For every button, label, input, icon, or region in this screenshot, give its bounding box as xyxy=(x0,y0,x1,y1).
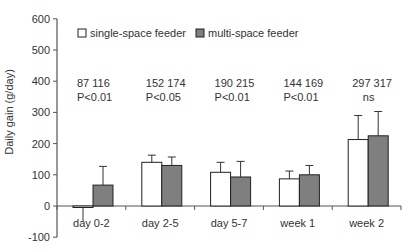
bar xyxy=(93,185,113,206)
bar xyxy=(231,177,251,206)
legend-label: multi-space feeder xyxy=(208,27,299,39)
x-axis: day 0-2day 2-5day 5-7week 1week 2 xyxy=(57,206,401,229)
sample-size-label: 87 116 xyxy=(77,77,110,89)
bars xyxy=(73,111,388,221)
significance-label: ns xyxy=(363,91,375,103)
y-tick-label: 600 xyxy=(32,13,50,25)
significance-label: P<0.01 xyxy=(77,91,112,103)
y-tick-label: 400 xyxy=(32,75,50,87)
sample-size-label: 152 174 xyxy=(146,77,186,89)
y-tick-label: 500 xyxy=(32,44,50,56)
annotations: 87 116P<0.01152 174P<0.05190 215P<0.0114… xyxy=(77,77,392,103)
bar xyxy=(299,175,319,206)
x-category-label: week 2 xyxy=(348,217,384,229)
legend: single-space feedermulti-space feeder xyxy=(78,27,299,39)
y-tick-label: 0 xyxy=(44,200,50,212)
significance-label: P<0.01 xyxy=(215,91,250,103)
x-category-label: day 0-2 xyxy=(73,217,110,229)
legend-swatch xyxy=(196,29,204,37)
x-category-label: day 2-5 xyxy=(142,217,179,229)
bar xyxy=(279,179,299,206)
x-category-label: week 1 xyxy=(279,217,315,229)
y-axis-label: Daily gain (g/day) xyxy=(3,69,15,155)
bar xyxy=(368,136,388,206)
y-tick-label: -100 xyxy=(28,231,50,243)
legend-swatch xyxy=(78,29,86,37)
bar xyxy=(162,165,182,206)
significance-label: P<0.05 xyxy=(146,91,181,103)
legend-label: single-space feeder xyxy=(90,27,186,39)
bar xyxy=(142,162,162,206)
y-tick-label: 200 xyxy=(32,138,50,150)
bar xyxy=(348,140,368,206)
sample-size-label: 144 169 xyxy=(283,77,323,89)
x-category-label: day 5-7 xyxy=(211,217,248,229)
sample-size-label: 190 215 xyxy=(215,77,255,89)
y-tick-label: 300 xyxy=(32,106,50,118)
bar xyxy=(211,172,231,206)
bar-chart: -1000100200300400500600 day 0-2day 2-5da… xyxy=(0,0,413,252)
sample-size-label: 297 317 xyxy=(352,77,392,89)
y-axis: -1000100200300400500600 xyxy=(28,13,57,243)
significance-label: P<0.01 xyxy=(283,91,318,103)
y-tick-label: 100 xyxy=(32,169,50,181)
